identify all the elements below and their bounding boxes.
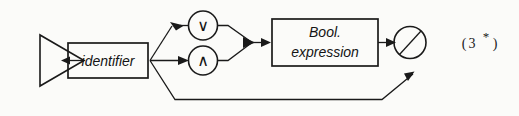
and-operator-label: ∧ [197, 51, 209, 70]
annotation-number: 3 [469, 36, 476, 51]
annotation-open-paren: ( [462, 36, 467, 52]
diagram-canvas: identifier ∨ ∧ [0, 0, 519, 116]
annotation-star: * [483, 29, 490, 44]
or-operator-node: ∨ [189, 11, 218, 40]
or-operator-label: ∨ [197, 16, 209, 35]
syntax-diagram: identifier ∨ ∧ [0, 0, 519, 116]
edge-identifier-to-and [150, 56, 189, 65]
and-operator-node: ∧ [189, 46, 218, 75]
identifier-label: identifier [82, 53, 136, 69]
bool-expression-label-line1: Bool. [309, 24, 341, 40]
exit-node [394, 27, 426, 59]
bool-expression-node: Bool. expression [272, 19, 378, 66]
edge-identifier-to-or [150, 22, 189, 61]
bool-expression-label-line2: expression [291, 44, 359, 60]
annotation-group: ( 3 * ) [462, 29, 498, 52]
annotation-close-paren: ) [493, 36, 498, 52]
